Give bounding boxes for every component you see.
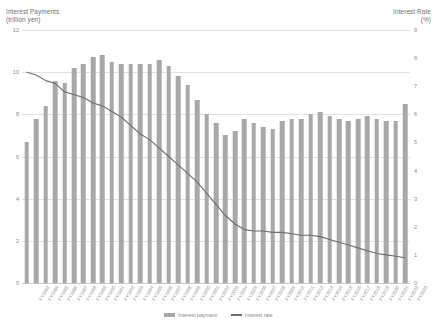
left-tick-label: 12	[13, 27, 19, 33]
left-tick-label: 8	[16, 111, 19, 117]
left-axis-title: Interest Payments (trillion yen)	[6, 8, 59, 24]
right-tick-label: 4	[414, 168, 417, 174]
legend-label-interest-rate: Interest rate	[245, 312, 273, 318]
chart-legend: Interest payment Interest rate	[0, 312, 437, 318]
right-tick-label: 5	[414, 139, 417, 145]
interest-payments-chart: Interest Payments (trillion yen) Interes…	[0, 0, 437, 326]
plot-area: 024681012 0123456789	[22, 30, 410, 283]
legend-item-interest-rate: Interest rate	[231, 312, 273, 318]
bar-swatch-icon	[164, 313, 175, 316]
line-swatch-icon	[231, 314, 242, 315]
left-tick-label: 10	[13, 69, 19, 75]
right-tick-label: 9	[414, 27, 417, 33]
interest-rate-polyline	[27, 72, 406, 258]
right-tick-label: 6	[414, 111, 417, 117]
left-tick-label: 6	[16, 154, 19, 160]
right-tick-label: 2	[414, 224, 417, 230]
gridline	[22, 283, 410, 284]
left-tick-label: 0	[16, 280, 19, 286]
right-axis-title: Interest Rate (%)	[393, 8, 431, 24]
right-tick-label: 1	[414, 252, 417, 258]
left-tick-label: 2	[16, 238, 19, 244]
line-series-interest-rate	[22, 30, 410, 283]
left-tick-label: 4	[16, 196, 19, 202]
legend-item-interest-payment: Interest payment	[164, 312, 217, 318]
right-tick-label: 7	[414, 83, 417, 89]
right-tick-label: 8	[414, 55, 417, 61]
legend-label-interest-payment: Interest payment	[178, 312, 217, 318]
right-tick-label: 3	[414, 196, 417, 202]
category-axis-labels: FY1983FY1984FY1985FY1986FY1987FY1988FY19…	[22, 285, 410, 313]
